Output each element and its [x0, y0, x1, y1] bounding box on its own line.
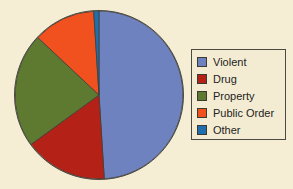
legend-label-drug: Drug: [213, 73, 237, 85]
legend-item-violent[interactable]: Violent: [197, 54, 285, 70]
legend-swatch-other: [197, 125, 207, 135]
legend-swatch-property: [197, 91, 207, 101]
legend-item-public-order[interactable]: Public Order: [197, 105, 285, 121]
chart-legend: Violent Drug Property Public Order Other: [191, 49, 286, 140]
legend-label-other: Other: [213, 124, 241, 136]
pie-chart-figure: Violent Drug Property Public Order Other: [0, 0, 293, 189]
legend-swatch-violent: [197, 57, 207, 67]
legend-item-other[interactable]: Other: [197, 122, 285, 138]
pie-chart-svg: [13, 9, 185, 181]
pie-slice-violent[interactable]: [99, 11, 183, 179]
legend-label-violent: Violent: [213, 56, 246, 68]
legend-label-public-order: Public Order: [213, 107, 274, 119]
legend-label-property: Property: [213, 90, 255, 102]
legend-item-property[interactable]: Property: [197, 88, 285, 104]
pie-chart-plot-area: [13, 9, 185, 181]
legend-item-drug[interactable]: Drug: [197, 71, 285, 87]
pie-slice-group: [15, 11, 183, 179]
legend-swatch-public-order: [197, 108, 207, 118]
legend-swatch-drug: [197, 74, 207, 84]
